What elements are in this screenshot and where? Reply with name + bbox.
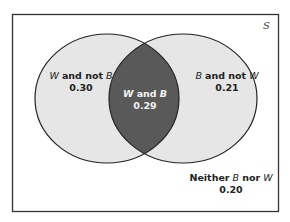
region-neither: Neither B nor W 0.20 — [176, 172, 286, 196]
region-value: 0.29 — [100, 100, 190, 112]
region-w-and-b: W and B 0.29 — [100, 88, 190, 112]
region-b-not-w: B and not W 0.21 — [182, 70, 272, 94]
region-value: 0.21 — [182, 82, 272, 94]
universe-label: S — [263, 20, 270, 31]
region-value: 0.20 — [176, 184, 286, 196]
